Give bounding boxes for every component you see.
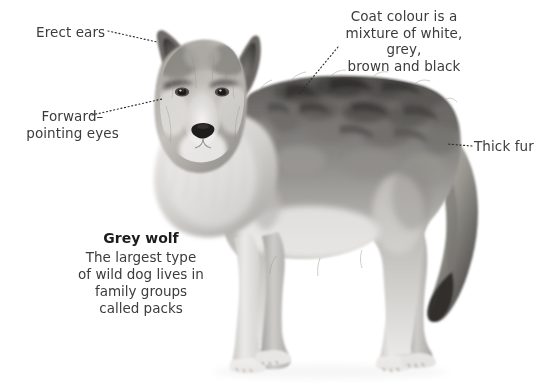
wolf-diagram-canvas: Erect ears Forward– pointing eyes Coat c… (0, 0, 546, 383)
annotation-erect-ears: Erect ears (36, 24, 105, 41)
caption-block: Grey wolf The largest type of wild dog l… (48, 228, 234, 317)
annotation-thick-fur: Thick fur (474, 138, 534, 155)
caption-title: Grey wolf (48, 228, 234, 248)
annotation-coat-colour: Coat colour is a mixture of white, grey,… (329, 8, 479, 74)
caption-body: The largest type of wild dog lives in fa… (48, 249, 234, 317)
annotation-forward-pointing-eyes: Forward– pointing eyes (20, 108, 125, 141)
